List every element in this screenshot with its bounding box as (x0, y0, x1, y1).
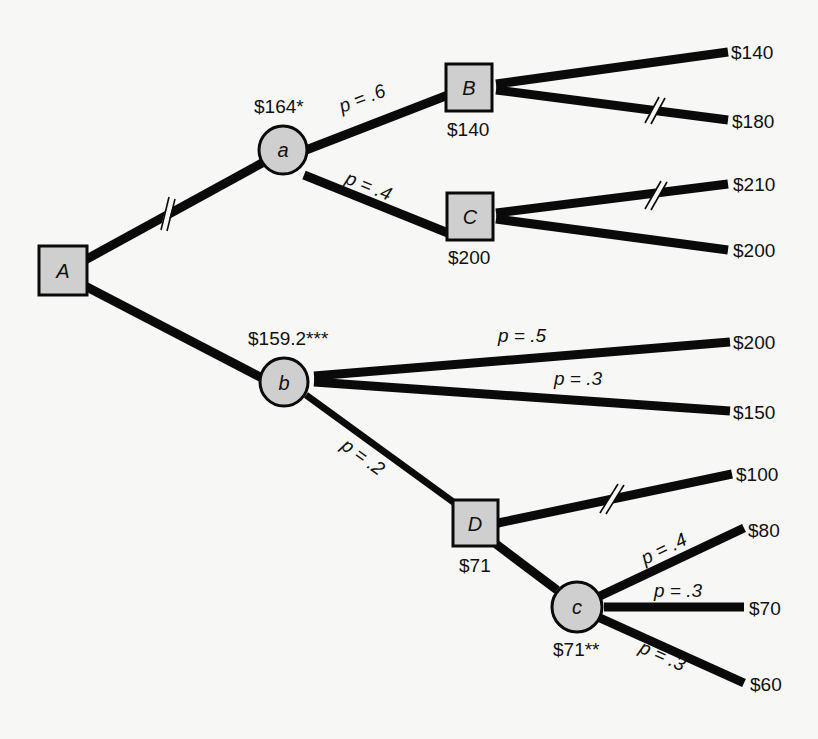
edge-C-210 (496, 184, 728, 213)
node-letter: A (55, 260, 69, 282)
edge-b-200 (314, 342, 730, 376)
node-letter: B (462, 77, 475, 99)
node-value: $159.2*** (248, 328, 329, 349)
node-C: C $200 (447, 193, 493, 268)
decision-tree-diagram: A a $164* B $140 C $200 b $159.2*** D $7… (0, 0, 818, 739)
node-letter: C (463, 206, 478, 228)
node-value: $140 (447, 119, 489, 140)
edge-D-c (496, 544, 557, 590)
edge-b-150 (314, 382, 730, 411)
edge-A-b (85, 286, 262, 378)
payoff-c-top: $80 (748, 520, 780, 541)
edge-B-140 (496, 52, 728, 84)
node-letter: D (468, 513, 482, 535)
payoff-D-top: $100 (736, 464, 778, 485)
node-value: $200 (448, 247, 490, 268)
node-c: c $71** (552, 582, 602, 660)
payoff-c-bottom: $60 (750, 674, 782, 695)
prob-b-150: p = .3 (553, 368, 602, 389)
payoff-C-bottom: $200 (733, 240, 775, 261)
pruned-markers (161, 97, 667, 514)
payoff-C-top: $210 (733, 174, 775, 195)
prob-a-B: p = .6 (335, 80, 389, 117)
edge-b-D (306, 395, 456, 504)
node-value: $164* (254, 96, 304, 117)
payoff-labels: $140 $180 $210 $200 $200 $150 $100 $80 $… (731, 42, 782, 695)
edge-A-a (85, 163, 262, 260)
node-a: a $164* (254, 96, 307, 174)
node-D: D $71 (453, 500, 498, 576)
node-letter: c (572, 596, 582, 618)
prob-b-200: p = .5 (497, 325, 546, 346)
payoff-b-top: $200 (733, 332, 775, 353)
edge-C-200 (496, 219, 728, 250)
node-b: b $159.2*** (248, 328, 329, 406)
payoff-B-bottom: $180 (732, 111, 774, 132)
payoff-c-mid: $70 (749, 598, 781, 619)
node-letter: b (278, 372, 289, 394)
node-value: $71** (553, 639, 600, 660)
edge-B-180 (496, 90, 728, 120)
edges (85, 52, 744, 683)
tree-canvas: A a $164* B $140 C $200 b $159.2*** D $7… (0, 0, 818, 739)
probability-labels: p = .6 p = .4 p = .5 p = .3 p = .2 p = .… (335, 80, 703, 676)
payoff-B-top: $140 (731, 42, 773, 63)
node-A: A (39, 246, 87, 295)
node-value: $71 (459, 555, 491, 576)
node-letter: a (277, 139, 288, 161)
prob-c-70: p = .3 (653, 580, 702, 601)
node-B: B $140 (446, 64, 492, 140)
payoff-b-mid: $150 (733, 402, 775, 423)
